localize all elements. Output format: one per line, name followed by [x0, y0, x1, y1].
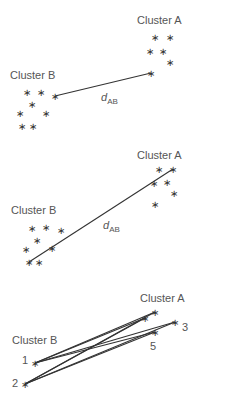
- cluster-a-label: Cluster A: [137, 149, 182, 161]
- cluster-b-point: ∗: [35, 257, 43, 268]
- cluster-b-point: ∗: [25, 257, 33, 268]
- cluster-b-point: ∗: [57, 225, 65, 236]
- cluster-a-point: ∗: [166, 57, 174, 68]
- cluster-b-label: Cluster B: [12, 334, 57, 346]
- cluster-distance-diagram: Cluster A Cluster B dAB ∗∗∗∗∗∗∗∗∗∗∗∗∗∗ C…: [0, 0, 240, 397]
- cluster-a-point: ∗: [159, 46, 167, 57]
- cluster-a-label: Cluster A: [140, 292, 185, 304]
- cluster-a-point: ∗: [170, 188, 178, 199]
- linkage-line: [25, 312, 155, 384]
- distance-label: dAB: [103, 219, 120, 234]
- cluster-a-point: ∗: [169, 164, 177, 175]
- point-label-2: 2: [12, 377, 18, 389]
- distance-label: dAB: [101, 91, 118, 106]
- cluster-a-point: ∗: [151, 307, 159, 318]
- cluster-a-label: Cluster A: [137, 14, 182, 26]
- cluster-points: ∗∗∗∗∗∗∗∗∗∗∗∗∗∗: [16, 32, 174, 132]
- cluster-a-point: ∗: [146, 46, 154, 57]
- cluster-b-point: ∗: [29, 121, 37, 132]
- cluster-a-point: ∗: [151, 32, 159, 43]
- cluster-b-point: ∗: [22, 244, 30, 255]
- cluster-b-point: ∗: [42, 108, 50, 119]
- panel-complete-linkage: Cluster A Cluster B dAB ∗∗∗∗∗∗∗∗∗∗∗∗∗∗: [11, 149, 182, 268]
- panel-single-linkage: Cluster A Cluster B dAB ∗∗∗∗∗∗∗∗∗∗∗∗∗∗: [10, 14, 182, 132]
- cluster-b-label: Cluster B: [10, 69, 55, 81]
- panel-average-linkage: Cluster A Cluster B 1 2 3 5 ∗∗∗∗∗∗: [12, 292, 188, 390]
- cluster-b-point: ∗: [28, 223, 36, 234]
- cluster-a-point: ∗: [141, 313, 149, 324]
- cluster-a-point: ∗: [163, 177, 171, 188]
- cluster-b-point: ∗: [28, 99, 36, 110]
- cluster-a-point: ∗: [171, 317, 179, 328]
- cluster-a-point: ∗: [147, 68, 155, 79]
- cluster-a-point: ∗: [166, 32, 174, 43]
- point-label-1: 1: [22, 354, 28, 366]
- cluster-b-point: ∗: [48, 243, 56, 254]
- cluster-b-point: ∗: [18, 121, 26, 132]
- cluster-a-point: ∗: [155, 164, 163, 175]
- cluster-b-point: ∗: [51, 91, 59, 102]
- cluster-b-label: Cluster B: [11, 204, 56, 216]
- point-label-5: 5: [150, 340, 156, 352]
- cluster-b-point: ∗: [31, 358, 39, 369]
- cluster-b-point: ∗: [42, 222, 50, 233]
- cluster-b-point: ∗: [21, 379, 29, 390]
- point-label-3: 3: [182, 321, 188, 333]
- cluster-b-point: ∗: [37, 87, 45, 98]
- cluster-a-point: ∗: [150, 178, 158, 189]
- cluster-a-point: ∗: [151, 199, 159, 210]
- cluster-a-point: ∗: [151, 327, 159, 338]
- cluster-b-point: ∗: [23, 87, 31, 98]
- cluster-b-point: ∗: [33, 235, 41, 246]
- cluster-b-point: ∗: [16, 108, 24, 119]
